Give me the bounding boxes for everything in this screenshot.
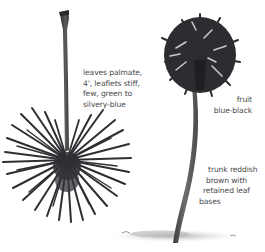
trunk-annotation-line-4: bases [199, 197, 257, 208]
leaf-annotation-line-4: silvery-blue [83, 100, 142, 111]
tree-crown [162, 14, 240, 96]
trunk-annotation-line-1: trunk reddish [199, 165, 257, 176]
leaf-annotation: leaves palmate, 4', leaflets stiff, few,… [83, 68, 142, 110]
leaf-annotation-line-3: few, green to [83, 89, 142, 100]
palm-illustration: leaves palmate, 4', leaflets stiff, few,… [0, 0, 265, 252]
fruit-annotation: fruit blue-black [214, 95, 252, 116]
trunk-annotation-line-2: brown with [199, 176, 257, 187]
fruit-annotation-line-2: blue-black [214, 106, 252, 117]
leaf-annotation-line-2: 4', leaflets stiff, [83, 79, 142, 90]
trunk-annotation-line-3: retained leaf [199, 186, 257, 197]
tree-trunk [173, 86, 198, 243]
trunk-annotation: trunk reddish brown with retained leaf b… [199, 165, 257, 207]
fruit-annotation-line-1: fruit [214, 95, 252, 106]
leaf-petiole [59, 10, 69, 152]
leaf-annotation-line-1: leaves palmate, [83, 68, 142, 79]
palm-drawing [0, 0, 265, 252]
